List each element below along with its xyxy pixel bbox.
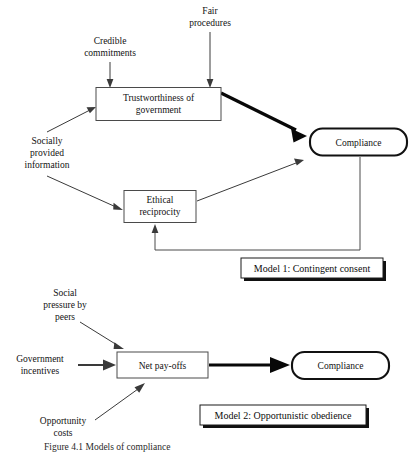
label-government-incentives: Government incentives xyxy=(16,354,64,376)
label-socially-provided-line3: information xyxy=(25,160,70,170)
node-compliance-model1: Compliance xyxy=(310,129,407,156)
node-compliance-model2: Compliance xyxy=(292,352,389,379)
node-ethical-line2: reciprocity xyxy=(139,207,180,217)
label-social-pressure-line3: peers xyxy=(55,312,75,322)
label-socially-provided-line2: provided xyxy=(30,148,64,158)
figure-models-of-compliance: Trustworthiness of government Ethical re… xyxy=(0,0,418,452)
label-government-incentives-line2: incentives xyxy=(21,366,60,376)
label-opportunity-costs-line1: Opportunity xyxy=(40,416,87,426)
edge-net-payoffs-to-compliance xyxy=(209,357,290,373)
label-socially-provided-information: Socially provided information xyxy=(25,136,70,170)
label-fair-procedures: Fair procedures xyxy=(189,6,231,28)
edge-socially-provided-to-trustworthiness xyxy=(47,107,96,132)
model2-label-text: Model 2: Opportunistic obedience xyxy=(215,410,352,421)
label-fair-procedures-line1: Fair xyxy=(202,6,218,16)
node-trustworthiness-of-government: Trustworthiness of government xyxy=(96,88,221,121)
node-net-pay-offs-label: Net pay-offs xyxy=(139,361,187,371)
edge-ethical-to-compliance xyxy=(197,159,304,201)
label-credible-commitments-line1: Credible xyxy=(94,36,127,46)
label-opportunity-costs-line2: costs xyxy=(54,428,73,438)
node-compliance-model2-label: Compliance xyxy=(318,361,364,371)
model1-label-text: Model 1: Contingent consent xyxy=(254,263,371,274)
node-compliance-model1-label: Compliance xyxy=(336,138,382,148)
figure-caption: Figure 4.1 Models of compliance xyxy=(44,442,170,452)
label-credible-commitments: Credible commitments xyxy=(84,36,136,58)
node-trustworthiness-line2: government xyxy=(136,105,182,115)
node-ethical-line1: Ethical xyxy=(147,195,174,205)
label-socially-provided-line1: Socially xyxy=(31,136,62,146)
node-net-pay-offs: Net pay-offs xyxy=(117,352,208,378)
edge-trustworthiness-to-compliance xyxy=(221,93,307,143)
label-social-pressure-by-peers: Social pressure by peers xyxy=(43,288,87,322)
label-credible-commitments-line2: commitments xyxy=(84,48,136,58)
model2-label-box: Model 2: Opportunistic obedience xyxy=(200,405,369,428)
edge-socially-provided-to-ethical xyxy=(47,176,123,210)
label-social-pressure-line1: Social xyxy=(53,288,77,298)
edge-fair-procedures-to-trustworthiness xyxy=(207,32,214,88)
diagram-canvas: Trustworthiness of government Ethical re… xyxy=(0,0,418,452)
node-trustworthiness-line1: Trustworthiness of xyxy=(123,93,195,103)
edge-credible-commitments-to-trustworthiness xyxy=(107,62,114,88)
edge-social-pressure-to-net-payoffs xyxy=(80,322,124,349)
label-opportunity-costs: Opportunity costs xyxy=(40,416,87,438)
label-social-pressure-line2: pressure by xyxy=(43,300,87,310)
edge-government-incentives-to-net-payoffs xyxy=(78,360,116,371)
edge-opportunity-costs-to-net-payoffs xyxy=(95,383,145,420)
node-ethical-reciprocity: Ethical reciprocity xyxy=(124,191,196,223)
label-fair-procedures-line2: procedures xyxy=(189,18,231,28)
label-government-incentives-line1: Government xyxy=(16,354,64,364)
model1-label-box: Model 1: Contingent consent xyxy=(241,258,386,281)
